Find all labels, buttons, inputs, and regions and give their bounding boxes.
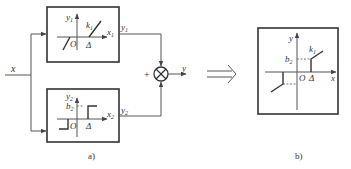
combined-b-label: b2 (285, 54, 293, 65)
top-block: y1 k1 x1 O Δ (47, 7, 119, 62)
caption-a: a) (88, 151, 95, 161)
summing-junction (154, 67, 168, 81)
input-label: x (10, 63, 16, 74)
bottom-origin-label: O (70, 121, 77, 131)
top-y-label: y1 (65, 12, 73, 23)
plus-sign: + (144, 69, 150, 80)
top-k-label: k1 (86, 20, 93, 31)
combined-k-label: k1 (309, 44, 316, 55)
y2-output-label: y2 (120, 105, 128, 116)
bottom-negative-step (59, 119, 68, 129)
top-x-label: x1 (106, 27, 114, 38)
diagram-canvas: x y1 k1 x1 O Δ y2 b2 x2 O (0, 0, 351, 169)
bottom-b-label: b2 (66, 101, 74, 112)
bottom-x-label: x2 (106, 109, 114, 120)
equivalence-arrow (207, 65, 236, 83)
output-label: y (181, 63, 186, 73)
y1-output-label: y1 (120, 22, 128, 33)
diagram-a: x y1 k1 x1 O Δ y2 b2 x2 O (5, 7, 186, 161)
top-negative-slope (63, 37, 70, 50)
top-delta-label: Δ (85, 40, 91, 50)
bottom-positive-step (88, 106, 97, 119)
caption-b: b) (295, 151, 303, 161)
combined-y-label: y (288, 33, 293, 43)
bottom-delta-label: Δ (85, 121, 91, 131)
diagram-b: y k1 b2 O Δ x b) (258, 28, 338, 161)
combined-origin-label: O (299, 73, 306, 83)
combined-block-frame (258, 28, 338, 114)
combined-delta-label: Δ (308, 73, 314, 83)
y1-signal-line (119, 34, 161, 66)
combined-negative-curve (271, 72, 283, 92)
combined-x-label: x (330, 73, 335, 83)
top-origin-label: O (70, 39, 77, 49)
bottom-block: y2 b2 x2 O Δ (47, 89, 119, 142)
